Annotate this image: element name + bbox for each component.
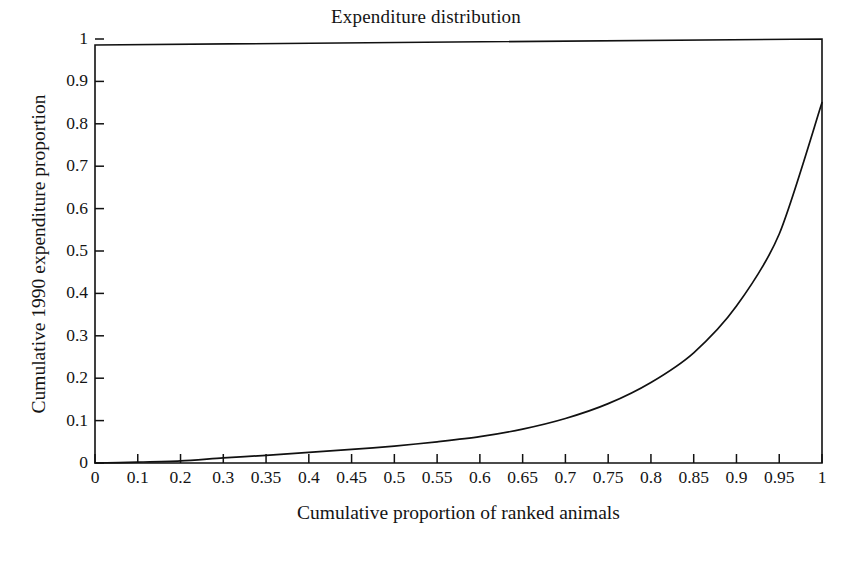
y-axis-ticks: [95, 39, 104, 463]
lorenz-curve: [95, 103, 822, 463]
frame-rect: [95, 39, 822, 463]
axis-frame: [95, 39, 822, 463]
plot-area: [0, 0, 852, 562]
chart-figure: Expenditure distribution Cumulative 1990…: [0, 0, 852, 562]
